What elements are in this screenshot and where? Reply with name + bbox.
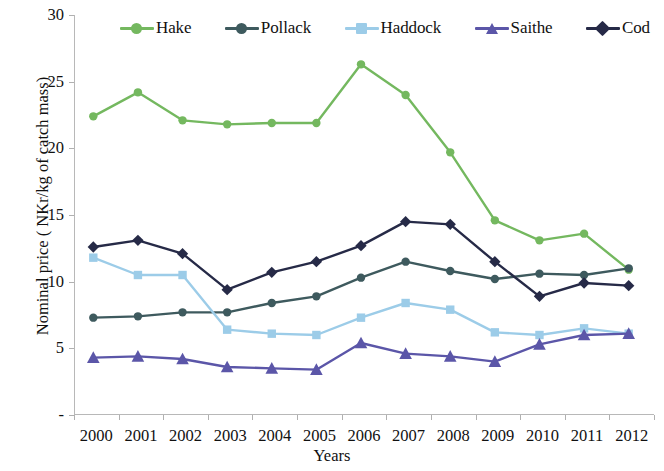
y-tick-label: 5: [56, 340, 64, 357]
data-point: [491, 328, 499, 336]
data-point: [357, 273, 365, 281]
data-point: [178, 308, 186, 316]
data-point: [446, 267, 454, 275]
data-point: [268, 119, 276, 127]
series-line: [93, 258, 628, 335]
x-tick-mark: [431, 415, 432, 420]
x-tick-label: 2009: [481, 428, 514, 445]
data-point: [401, 257, 409, 265]
data-point: [535, 331, 543, 339]
data-point: [401, 299, 409, 307]
x-tick-label: 2004: [258, 428, 291, 445]
data-point: [134, 88, 142, 96]
data-point: [580, 229, 588, 237]
data-point: [88, 241, 99, 252]
x-axis-ticklabels: 2000200120022003200420052006200720082009…: [74, 420, 654, 446]
x-tick-mark: [208, 415, 209, 420]
data-point: [355, 240, 366, 251]
x-tick-label: 2008: [437, 428, 470, 445]
x-tick-label: 2011: [571, 428, 603, 445]
data-point: [357, 60, 365, 68]
x-tick-label: 2007: [392, 428, 425, 445]
series-container: [74, 15, 654, 415]
line-chart: HakePollackHaddockSaitheCod Nominal pric…: [0, 0, 664, 471]
x-tick-label: 2003: [214, 428, 247, 445]
x-tick-label: 2005: [303, 428, 336, 445]
y-tick-label: 10: [48, 273, 65, 290]
data-point: [312, 331, 320, 339]
data-point: [268, 299, 276, 307]
x-tick-label: 2006: [348, 428, 381, 445]
x-tick-mark: [476, 415, 477, 420]
plot-area: [74, 15, 654, 415]
y-axis-ticklabels: -51015202530: [0, 0, 74, 471]
series-pollack: [89, 257, 633, 321]
x-tick-mark: [565, 415, 566, 420]
data-point: [178, 116, 186, 124]
series-haddock: [89, 253, 633, 339]
y-tick-label: 25: [48, 73, 65, 90]
series-cod: [88, 216, 635, 302]
x-tick-mark: [163, 415, 164, 420]
x-tick-mark: [252, 415, 253, 420]
data-point: [355, 337, 368, 349]
series-line: [93, 64, 628, 269]
x-tick-label: 2001: [124, 428, 157, 445]
data-point: [446, 305, 454, 313]
series-line: [93, 262, 628, 318]
x-tick-mark: [609, 415, 610, 420]
data-point: [266, 267, 277, 278]
x-tick-mark: [520, 415, 521, 420]
y-tick-label: -: [59, 407, 65, 424]
data-point: [312, 292, 320, 300]
data-point: [268, 329, 276, 337]
y-tick-label: 20: [48, 140, 65, 157]
x-tick-label: 2012: [615, 428, 648, 445]
x-tick-label: 2000: [80, 428, 113, 445]
x-tick-mark: [342, 415, 343, 420]
x-tick-label: 2002: [169, 428, 202, 445]
x-tick-mark: [119, 415, 120, 420]
data-point: [446, 148, 454, 156]
data-point: [312, 119, 320, 127]
data-point: [89, 112, 97, 120]
data-point: [623, 280, 634, 291]
data-point: [491, 275, 499, 283]
data-point: [178, 271, 186, 279]
x-tick-mark: [386, 415, 387, 420]
x-tick-mark: [654, 415, 655, 420]
data-point: [535, 236, 543, 244]
data-point: [223, 325, 231, 333]
x-tick-label: 2010: [526, 428, 559, 445]
data-point: [223, 120, 231, 128]
data-point: [578, 277, 589, 288]
y-tick-label: 15: [48, 207, 65, 224]
data-point: [89, 313, 97, 321]
series-line: [93, 222, 628, 297]
data-point: [401, 91, 409, 99]
data-point: [400, 216, 411, 227]
data-point: [357, 313, 365, 321]
x-axis-title: Years: [0, 446, 664, 466]
data-point: [223, 308, 231, 316]
data-point: [134, 312, 142, 320]
data-point: [624, 264, 632, 272]
x-tick-mark: [297, 415, 298, 420]
data-point: [535, 269, 543, 277]
data-point: [89, 253, 97, 261]
data-point: [311, 256, 322, 267]
data-point: [134, 271, 142, 279]
series-saithe: [87, 327, 635, 375]
x-tick-mark: [74, 415, 75, 420]
y-tick-label: 30: [48, 7, 65, 24]
data-point: [132, 235, 143, 246]
data-point: [491, 216, 499, 224]
